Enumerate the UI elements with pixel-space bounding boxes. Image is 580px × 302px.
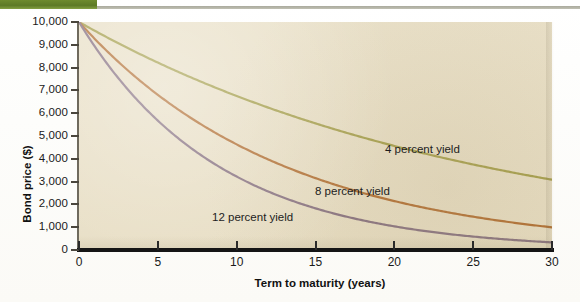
curve-12-percent-yield xyxy=(79,22,552,242)
curve-4-percent-yield xyxy=(79,22,552,180)
x-axis-tick xyxy=(472,241,474,250)
x-axis-tick xyxy=(551,241,553,250)
series-label-8-percent-yield: 8 percent yield xyxy=(315,185,390,197)
y-axis-tick xyxy=(71,112,79,114)
y-axis-tick xyxy=(71,158,79,160)
x-axis-tick-label: 30 xyxy=(532,255,572,269)
series-label-4-percent-yield: 4 percent yield xyxy=(385,143,460,155)
x-axis-tick xyxy=(315,241,317,250)
curves-svg xyxy=(79,22,552,250)
x-axis-tick-label: 25 xyxy=(453,255,493,269)
x-axis-tick-label: 5 xyxy=(138,255,178,269)
y-axis-tick xyxy=(71,67,79,69)
x-axis-tick xyxy=(236,241,238,250)
x-axis-tick-label: 0 xyxy=(59,255,99,269)
x-axis-tick-label: 20 xyxy=(374,255,414,269)
plot-area xyxy=(79,22,552,250)
x-axis-tick xyxy=(157,241,159,250)
y-axis-title-host: Bond price ($) xyxy=(8,60,30,180)
y-axis-title: Bond price ($) xyxy=(21,134,33,234)
y-axis-tick xyxy=(71,21,79,23)
y-axis-tick xyxy=(71,135,79,137)
x-axis-tick xyxy=(393,241,395,250)
y-axis-tick xyxy=(71,89,79,91)
x-axis-tick xyxy=(78,241,80,250)
green-accent-tab xyxy=(0,0,97,9)
x-axis-tick-label: 15 xyxy=(296,255,336,269)
y-axis-tick xyxy=(71,203,79,205)
y-axis-tick-label: 0 xyxy=(0,243,68,255)
x-axis-tick-label: 10 xyxy=(217,255,257,269)
y-axis-tick xyxy=(71,44,79,46)
y-axis-tick-label: 10,000 xyxy=(0,15,68,27)
y-axis-tick-label: 9,000 xyxy=(0,38,68,50)
series-label-12-percent-yield: 12 percent yield xyxy=(212,211,293,223)
figure-canvas: 01,0002,0003,0004,0005,0006,0007,0008,00… xyxy=(0,0,580,302)
y-axis-tick-label: 2,000 xyxy=(0,197,68,209)
y-axis-tick xyxy=(71,181,79,183)
x-axis-title: Term to maturity (years) xyxy=(200,277,440,289)
y-axis-tick xyxy=(71,226,79,228)
y-axis-tick-label: 1,000 xyxy=(0,220,68,232)
